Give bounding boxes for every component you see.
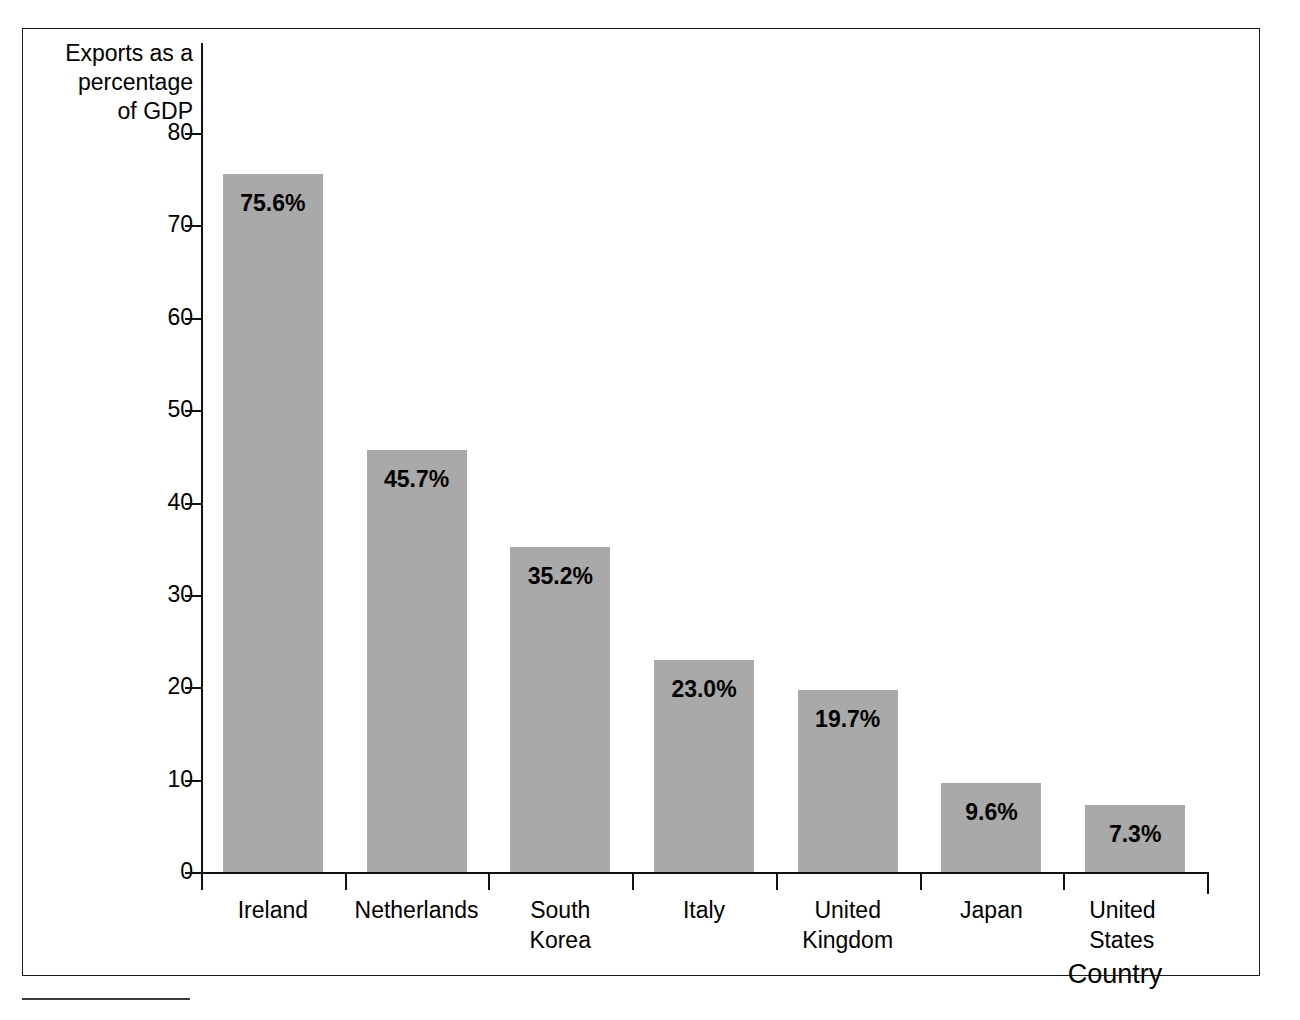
figure-frame: Exports as a percentage of GDP 010203040… xyxy=(22,28,1260,976)
y-axis-tick-mark xyxy=(185,780,201,782)
x-axis-line xyxy=(201,872,1209,874)
bar[interactable]: 9.6% xyxy=(941,783,1041,872)
y-axis-tick-label: 60 xyxy=(83,306,193,329)
bar[interactable]: 35.2% xyxy=(510,547,610,872)
y-axis-tick-label: 50 xyxy=(83,398,193,421)
bar-value-label: 35.2% xyxy=(510,565,610,588)
x-axis-category-label: United States xyxy=(1089,895,1233,955)
y-axis-tick-label: 40 xyxy=(83,491,193,514)
x-axis-tick-mark xyxy=(1063,872,1065,890)
bar[interactable]: 7.3% xyxy=(1085,805,1185,872)
y-axis-tick-label: 80 xyxy=(83,121,193,144)
bar[interactable]: 19.7% xyxy=(798,690,898,872)
x-axis-category-label: Ireland xyxy=(201,895,345,925)
footnote-separator-rule xyxy=(22,998,190,1000)
y-axis-tick-mark xyxy=(185,687,201,689)
y-axis-tick-mark xyxy=(185,595,201,597)
bar-value-label: 45.7% xyxy=(367,468,467,491)
x-axis-tick-mark xyxy=(488,872,490,890)
x-axis-category-label: United Kingdom xyxy=(776,895,920,955)
bar-value-label: 75.6% xyxy=(223,192,323,215)
x-axis-category-label: Italy xyxy=(632,895,776,925)
x-axis-tick-mark xyxy=(201,872,203,890)
bar-value-label: 23.0% xyxy=(654,678,754,701)
bar[interactable]: 23.0% xyxy=(654,660,754,872)
x-axis-title: Country xyxy=(1023,959,1207,989)
bar[interactable]: 75.6% xyxy=(223,174,323,872)
x-axis-tick-mark xyxy=(920,872,922,890)
x-axis-category-label: South Korea xyxy=(488,895,632,955)
y-axis-tick-label: 10 xyxy=(83,768,193,791)
x-axis-tick-mark xyxy=(776,872,778,890)
x-axis-category-label: Netherlands xyxy=(345,895,489,925)
bar[interactable]: 45.7% xyxy=(367,450,467,872)
y-axis-tick-mark xyxy=(185,503,201,505)
bar-value-label: 19.7% xyxy=(798,708,898,731)
y-axis-tick-mark xyxy=(185,410,201,412)
x-axis-tick-mark xyxy=(345,872,347,890)
y-axis-tick-label: 20 xyxy=(83,675,193,698)
bar-chart-plot-area: Exports as a percentage of GDP 010203040… xyxy=(23,29,1259,975)
x-axis-category-label: Japan xyxy=(920,895,1064,925)
y-axis-title: Exports as a percentage of GDP xyxy=(51,39,193,126)
x-axis-tick-mark xyxy=(1207,872,1209,890)
y-axis-tick-mark xyxy=(185,318,201,320)
y-axis-tick-label: 70 xyxy=(83,213,193,236)
y-axis-tick-mark xyxy=(185,133,201,135)
y-axis-tick-label: 0 xyxy=(83,860,193,883)
y-axis-tick-mark xyxy=(185,225,201,227)
y-axis-tick-mark xyxy=(185,872,201,874)
x-axis-tick-mark xyxy=(632,872,634,890)
bar-value-label: 9.6% xyxy=(941,801,1041,824)
y-axis-line xyxy=(201,43,203,873)
bar-value-label: 7.3% xyxy=(1085,823,1185,846)
y-axis-tick-label: 30 xyxy=(83,583,193,606)
